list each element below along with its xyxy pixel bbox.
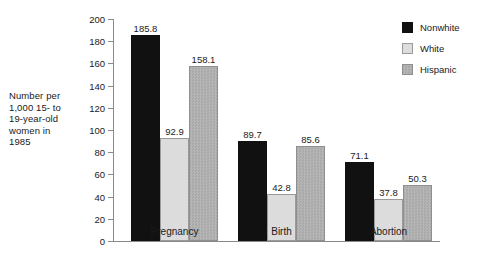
legend-item-hispanic[interactable]: Hispanic [402, 59, 481, 80]
legend-label-white: White [420, 43, 444, 54]
y-tick-label: 60 [94, 169, 105, 180]
bar-value-label: 85.6 [301, 134, 320, 145]
legend-item-nonwhite[interactable]: Nonwhite [402, 17, 481, 38]
y-tick-mark [108, 63, 113, 64]
y-tick-label: 140 [89, 80, 105, 91]
y-tick-mark [108, 19, 113, 20]
category-label-birth: Birth [271, 226, 292, 237]
y-tick-mark [108, 41, 113, 42]
y-tick-label: 180 [89, 36, 105, 47]
bar-abortion-hispanic: 50.3 [403, 185, 432, 241]
category-label-abortion: Abortion [370, 226, 407, 237]
bar-value-label: 92.9 [165, 126, 184, 137]
y-tick-label: 0 [100, 236, 105, 247]
y-tick-mark [108, 130, 113, 131]
bar-chart-figure: Number per 1,000 15- to 19-year-old wome… [0, 0, 481, 275]
bar-value-label: 37.8 [379, 187, 398, 198]
y-axis-label: Number per 1,000 15- to 19-year-old wome… [9, 90, 91, 148]
legend: Nonwhite White Hispanic [402, 17, 481, 80]
y-tick-label: 200 [89, 14, 105, 25]
legend-label-hispanic: Hispanic [420, 64, 456, 75]
bar-birth-hispanic: 85.6 [296, 146, 325, 241]
y-tick-mark [108, 241, 113, 242]
y-tick-label: 120 [89, 102, 105, 113]
legend-swatch-nonwhite [402, 22, 413, 33]
bar-value-label: 158.1 [192, 54, 216, 65]
y-tick-label: 100 [89, 125, 105, 136]
bar-value-label: 42.8 [272, 182, 291, 193]
y-tick-label: 20 [94, 213, 105, 224]
bar-pregnancy-hispanic: 158.1 [189, 66, 218, 241]
y-tick-label: 40 [94, 191, 105, 202]
y-tick-mark [108, 197, 113, 198]
y-tick-mark [108, 108, 113, 109]
bar-value-label: 71.1 [350, 150, 369, 161]
legend-label-nonwhite: Nonwhite [420, 22, 460, 33]
y-tick-mark [108, 152, 113, 153]
y-tick-label: 160 [89, 58, 105, 69]
y-tick-label: 80 [94, 147, 105, 158]
bar-value-label: 89.7 [243, 129, 262, 140]
legend-swatch-hispanic [402, 64, 413, 75]
x-axis-line [113, 241, 440, 242]
y-tick-mark [108, 219, 113, 220]
plot-area: 020406080100120140160180200 185.892.9158… [113, 19, 440, 241]
bar-pregnancy-nonwhite: 185.8 [131, 35, 160, 241]
category-label-pregnancy: Pregnancy [151, 226, 199, 237]
legend-swatch-white [402, 43, 413, 54]
y-tick-mark [108, 86, 113, 87]
legend-item-white[interactable]: White [402, 38, 481, 59]
y-axis-line [113, 19, 114, 241]
bar-value-label: 185.8 [134, 23, 158, 34]
y-tick-mark [108, 174, 113, 175]
bar-birth-nonwhite: 89.7 [238, 141, 267, 241]
bar-value-label: 50.3 [408, 173, 427, 184]
